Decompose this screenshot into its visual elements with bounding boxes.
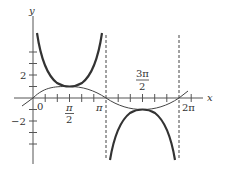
tick-label-y-2: 2 bbox=[20, 70, 26, 81]
y-axis-label: y bbox=[28, 5, 35, 16]
tick-label-pi-half-num: π bbox=[65, 102, 73, 113]
tick-label-two-pi: 2π bbox=[182, 102, 195, 113]
tick-label-y-neg-2: −2 bbox=[11, 116, 26, 127]
tick-label-pi-half-den: 2 bbox=[66, 114, 72, 125]
graph-sin-csc: y x 0 2 −2 π 2 π 3π 2 2π bbox=[0, 0, 227, 174]
csc-curve-branch-2 bbox=[110, 110, 175, 161]
tick-label-three-pi-half-den: 2 bbox=[139, 81, 145, 92]
x-axis-label: x bbox=[207, 92, 213, 103]
tick-label-three-pi-half-num: 3π bbox=[136, 68, 149, 79]
tick-label-pi: π bbox=[95, 102, 103, 113]
csc-curve-branch-1 bbox=[37, 33, 102, 87]
tick-label-zero: 0 bbox=[37, 101, 43, 112]
